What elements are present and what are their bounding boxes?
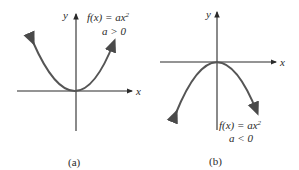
caption-a: (a)	[68, 156, 81, 169]
panel-a: y x f(x) = ax2 a > 0 (a)	[17, 9, 141, 169]
condition-label: a > 0	[102, 25, 126, 37]
y-axis-label: y	[205, 8, 211, 20]
y-axis-label: y	[62, 9, 68, 21]
caption-b: (b)	[209, 155, 222, 168]
x-axis-label: x	[279, 56, 285, 68]
function-label: f(x) = ax2	[87, 11, 130, 24]
function-label: f(x) = ax2	[219, 119, 262, 132]
x-axis-label: x	[135, 85, 141, 97]
parabola-diagrams: y x f(x) = ax2 a > 0 (a) y x f(x) = ax2 …	[0, 0, 299, 170]
condition-label: a < 0	[229, 132, 253, 144]
parabola-up-curve	[33, 42, 114, 91]
panel-b: y x f(x) = ax2 a < 0 (b)	[160, 8, 285, 168]
